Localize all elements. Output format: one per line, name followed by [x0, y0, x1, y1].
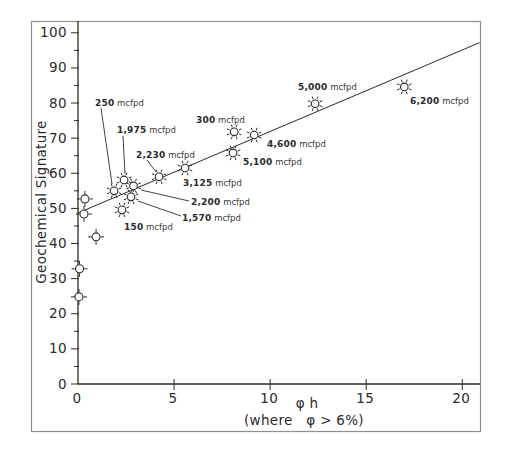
chart-figure: 010203040506070809010005101520 250 mcfpd… — [0, 0, 505, 454]
sun-ray — [127, 207, 130, 208]
sun-ray — [190, 170, 193, 171]
data-point-cross-circle — [72, 261, 88, 277]
sun-ray — [126, 173, 127, 176]
sun-ray — [161, 170, 162, 173]
data-point-cross-circle — [77, 191, 93, 207]
x-tick-label: 0 — [73, 390, 82, 406]
sun-ray — [164, 179, 167, 180]
circle-core — [92, 233, 100, 241]
sun-ray — [251, 128, 252, 131]
sun-ray — [161, 181, 162, 184]
point-label: 2,230 mcfpd — [136, 150, 195, 160]
point-label: 3,125 mcfpd — [183, 178, 242, 188]
sun-ray — [128, 201, 129, 204]
data-point-sun — [117, 173, 131, 187]
point-label: 5,000 mcfpd — [298, 82, 357, 92]
sun-ray — [152, 179, 155, 180]
sun-ray — [409, 84, 412, 85]
x-tick-label: 20 — [452, 390, 470, 406]
data-points — [71, 80, 411, 305]
sun-ray — [119, 214, 120, 217]
sun-ray — [182, 161, 183, 164]
axes — [78, 21, 480, 384]
sun-ray — [406, 92, 407, 95]
y-tick-label: 100 — [40, 24, 67, 40]
sun-ray — [121, 185, 122, 188]
point-label: 2,200 mcfpd — [191, 197, 250, 207]
sun-ray — [138, 188, 141, 189]
sun-ray — [247, 132, 250, 133]
sun-ray — [156, 181, 157, 184]
sun-ray — [119, 188, 122, 189]
sun-ray — [239, 134, 242, 135]
point-label: 5,100 mcfpd — [243, 157, 302, 167]
data-point-cross-circle — [71, 289, 87, 305]
sun-ray — [397, 84, 400, 85]
data-point-sun — [115, 203, 129, 217]
sun-ray — [236, 136, 237, 139]
sun-ray — [135, 191, 136, 194]
y-tick-label: 40 — [49, 235, 67, 251]
sun-ray — [124, 199, 127, 200]
y-tick-label: 20 — [49, 305, 67, 321]
sun-ray — [138, 183, 141, 184]
y-tick-label: 70 — [49, 130, 67, 146]
sun-ray — [227, 134, 230, 135]
point-label: 4,600 mcfpd — [267, 139, 326, 149]
sun-ray — [259, 132, 262, 133]
sun-ray — [111, 195, 112, 198]
sun-ray — [308, 106, 311, 107]
sun-core — [110, 187, 118, 195]
sun-ray — [317, 97, 318, 100]
data-point-sun — [226, 146, 240, 160]
sun-ray — [317, 108, 318, 111]
sun-ray — [115, 212, 118, 213]
point-label: 300 mcfpd — [196, 115, 245, 125]
y-tick-label: 30 — [49, 270, 67, 286]
sun-ray — [231, 125, 232, 128]
sun-ray — [127, 212, 130, 213]
circle-core — [80, 210, 88, 218]
sun-ray — [256, 128, 257, 131]
point-label: 1,975 mcfpd — [117, 125, 176, 135]
sun-ray — [117, 182, 120, 183]
sun-core — [118, 206, 126, 214]
label-leader-line — [141, 190, 189, 201]
sun-core — [311, 100, 319, 108]
sun-ray — [107, 188, 110, 189]
sun-core — [130, 182, 138, 190]
sun-ray — [126, 185, 127, 188]
sun-ray — [116, 184, 117, 187]
figure-border — [32, 22, 481, 432]
sun-core — [250, 131, 258, 139]
sun-core — [155, 173, 163, 181]
sun-ray — [401, 92, 402, 95]
data-point-sun — [178, 161, 192, 175]
data-point-cross-circle — [88, 229, 104, 245]
sun-ray — [115, 207, 118, 208]
sun-ray — [227, 129, 230, 130]
sun-ray — [164, 174, 167, 175]
sun-ray — [259, 137, 262, 138]
y-tick-label: 80 — [49, 95, 67, 111]
data-point-sun — [308, 97, 322, 111]
sun-ray — [320, 101, 323, 102]
sun-ray — [187, 173, 188, 176]
sun-ray — [247, 137, 250, 138]
sun-ray — [124, 203, 125, 206]
circle-core — [81, 195, 89, 203]
sun-ray — [235, 158, 236, 161]
sun-ray — [239, 129, 242, 130]
point-label: 250 mcfpd — [95, 98, 144, 108]
sun-ray — [135, 179, 136, 182]
scatter-plot: 010203040506070809010005101520 250 mcfpd… — [0, 0, 505, 454]
circle-core — [76, 265, 84, 273]
sun-ray — [236, 125, 237, 128]
sun-ray — [401, 80, 402, 83]
sun-ray — [124, 214, 125, 217]
data-point-sun — [397, 80, 411, 94]
sun-ray — [182, 173, 183, 176]
sun-core — [230, 128, 238, 136]
sun-ray — [117, 177, 120, 178]
sun-ray — [124, 194, 127, 195]
